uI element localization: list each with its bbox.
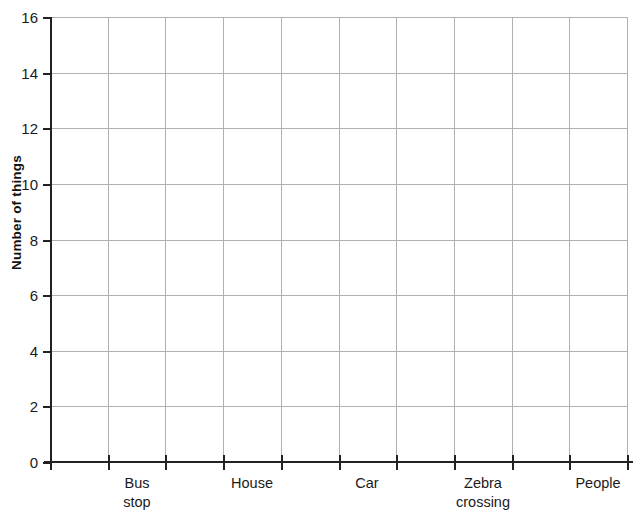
x-tick-mark (396, 455, 398, 470)
x-category-label: Car (307, 474, 427, 493)
y-tick-mark (43, 17, 51, 19)
y-tick-label: 14 (8, 66, 38, 81)
x-tick-mark (339, 455, 341, 470)
y-tick-mark (43, 351, 51, 353)
x-category-label: House (192, 474, 312, 493)
gridline-vertical (627, 17, 628, 462)
x-category-label: Zebra crossing (423, 474, 543, 512)
x-category-label: Bus stop (77, 474, 197, 512)
y-tick-label: 16 (8, 10, 38, 25)
y-tick-label: 2 (8, 399, 38, 414)
bars-layer (50, 17, 627, 462)
y-tick-mark (43, 406, 51, 408)
y-tick-label: 4 (8, 344, 38, 359)
y-tick-label: 0 (8, 455, 38, 470)
x-tick-mark (281, 455, 283, 470)
y-tick-label: 12 (8, 121, 38, 136)
x-tick-mark (108, 455, 110, 470)
x-tick-mark (569, 455, 571, 470)
bar-chart: 0246810121416 Bus stopHouseCarZebra cros… (0, 0, 634, 526)
y-tick-mark (43, 184, 51, 186)
x-tick-mark (223, 455, 225, 470)
y-tick-mark (43, 128, 51, 130)
x-tick-mark (50, 455, 52, 470)
x-category-label: People (538, 474, 634, 493)
plot-area (50, 17, 627, 462)
x-tick-mark (627, 455, 629, 470)
y-tick-mark (43, 295, 51, 297)
y-tick-mark (43, 73, 51, 75)
x-tick-mark (165, 455, 167, 470)
y-tick-label: 6 (8, 288, 38, 303)
x-tick-mark (454, 455, 456, 470)
x-tick-mark (512, 455, 514, 470)
y-tick-mark (43, 240, 51, 242)
y-axis-title: Number of things (9, 143, 24, 283)
